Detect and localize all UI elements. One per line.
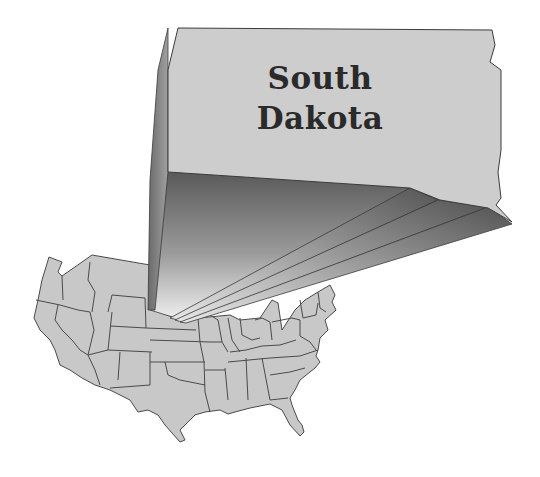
state-label-line-1: South xyxy=(230,60,410,96)
state-label-line-2: Dakota xyxy=(230,100,410,136)
